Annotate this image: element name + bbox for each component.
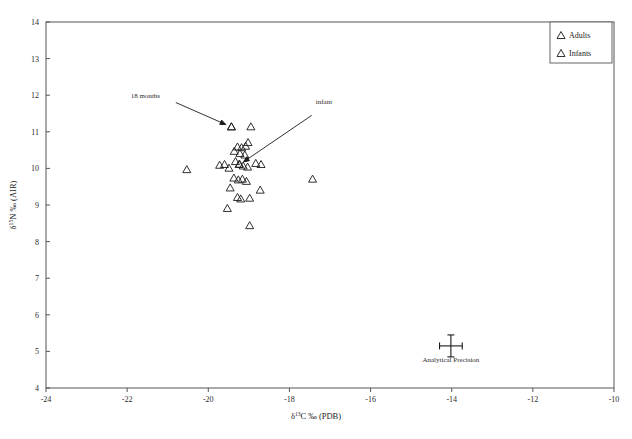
x-tick-label: -20 xyxy=(203,395,214,404)
y-tick-label: 7 xyxy=(35,274,39,283)
y-tick-label: 9 xyxy=(35,201,39,210)
y-tick-label: 13 xyxy=(31,55,39,64)
y-tick-label: 14 xyxy=(31,18,39,27)
x-tick-label: -24 xyxy=(41,395,52,404)
y-tick-label: 10 xyxy=(31,164,39,173)
analytical-precision-label: Analytical Precision xyxy=(422,356,479,364)
x-tick-label: -16 xyxy=(365,395,376,404)
legend-label: Infants xyxy=(569,49,591,58)
x-tick-label: -14 xyxy=(446,395,457,404)
x-tick-label: -10 xyxy=(609,395,620,404)
y-tick-label: 12 xyxy=(31,91,39,100)
x-tick-label: -22 xyxy=(122,395,133,404)
annotation-label-infant: infant xyxy=(316,98,332,106)
legend-label: Adults xyxy=(569,31,590,40)
legend[interactable]: AdultsInfants xyxy=(550,22,612,63)
y-tick-label: 4 xyxy=(35,384,39,393)
y-tick-label: 5 xyxy=(35,347,39,356)
y-tick-label: 6 xyxy=(35,311,39,320)
figure-background xyxy=(0,0,632,439)
plot-canvas: -24-22-20-18-16-14-12-10 456789101112131… xyxy=(0,0,632,439)
y-tick-label: 11 xyxy=(31,128,39,137)
x-tick-label: -18 xyxy=(284,395,295,404)
x-tick-label: -12 xyxy=(528,395,539,404)
y-tick-label: 8 xyxy=(35,238,39,247)
annotation-label-18-months: 18 months xyxy=(131,92,161,100)
scatter-plot-figure: -24-22-20-18-16-14-12-10 456789101112131… xyxy=(0,0,632,439)
